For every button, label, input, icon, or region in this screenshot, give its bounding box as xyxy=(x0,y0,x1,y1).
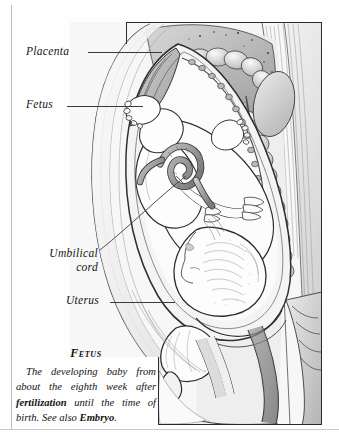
caption-text-3: . xyxy=(114,412,117,423)
label-umbilical-cord: Umbilical cord xyxy=(12,246,98,275)
page-rule-left xyxy=(11,5,12,429)
label-fetus: Fetus xyxy=(26,98,53,110)
plate-border-lower-left xyxy=(158,357,159,425)
caption-crossref-embryo[interactable]: Embryo xyxy=(80,412,115,423)
leader-line-uterus xyxy=(110,302,175,303)
caption-heading: Fetus xyxy=(16,346,156,361)
plate-border-top-left xyxy=(126,22,127,44)
leader-line-placenta xyxy=(88,52,162,53)
caption-term-fertilization: fertilization xyxy=(16,397,67,408)
label-umbilical-line2: cord xyxy=(76,261,98,273)
page-rule-bottom xyxy=(0,429,339,430)
caption-text-1: The developing baby from about the eight… xyxy=(16,366,156,392)
plate-border-right xyxy=(321,22,322,425)
caption-body: The developing baby from about the eight… xyxy=(16,364,156,426)
caption-block: Fetus The developing baby from about the… xyxy=(16,346,156,426)
label-placenta: Placenta xyxy=(26,45,69,57)
label-umbilical-line1: Umbilical xyxy=(49,247,98,259)
plate-border-bottom xyxy=(158,424,322,425)
label-uterus: Uterus xyxy=(66,294,99,306)
plate-border-top xyxy=(126,22,322,23)
leader-line-fetus xyxy=(67,106,143,107)
encyclopedia-page: Placenta Fetus Umbilical cord Uterus Fet… xyxy=(0,0,339,437)
